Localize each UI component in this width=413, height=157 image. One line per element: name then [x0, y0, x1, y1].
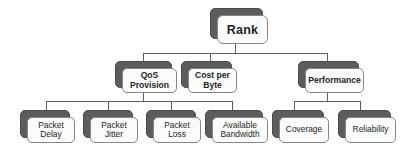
node-label: Available Bandwidth	[218, 121, 261, 140]
connector-to-qos-provision	[143, 53, 144, 61]
card-face: Packet Loss	[153, 117, 201, 143]
node-packet-jitter[interactable]: Packet Jitter	[83, 110, 138, 143]
card-face: Reliability	[345, 117, 396, 143]
node-label: Rank	[225, 23, 260, 37]
connector-to-packet-delay	[46, 101, 47, 110]
node-performance[interactable]: Performance	[298, 61, 364, 93]
node-rank[interactable]: Rank	[210, 8, 268, 44]
node-cost-per-byte[interactable]: Cost per Byte	[181, 61, 237, 93]
node-available-bandwidth[interactable]: Available Bandwidth	[205, 110, 268, 143]
node-label: Packet Loss	[162, 121, 192, 140]
connector-level1-bar	[143, 53, 328, 54]
node-label: Packet Delay	[36, 121, 66, 140]
node-label: Packet Jitter	[99, 121, 129, 140]
node-label: QoS Provision	[128, 71, 171, 90]
card-face: Available Bandwidth	[212, 117, 268, 143]
node-label: Performance	[306, 76, 363, 86]
connector-performance-children-bar	[294, 101, 361, 102]
card-face: Packet Jitter	[90, 117, 138, 143]
connector-root-stem	[235, 44, 236, 53]
node-label: Reliability	[351, 125, 391, 134]
node-label: Coverage	[284, 125, 324, 134]
connector-to-packet-loss	[171, 101, 172, 110]
hierarchy-diagram: Rank QoS Provision Cost per Byte Perform…	[0, 0, 413, 157]
connector-qos-children-bar	[46, 101, 233, 102]
card-face: Rank	[217, 15, 268, 44]
card-face: Cost per Byte	[188, 68, 237, 93]
card-face: QoS Provision	[122, 68, 177, 93]
connector-to-performance	[327, 53, 328, 61]
connector-to-reliability	[360, 101, 361, 110]
card-face: Packet Delay	[27, 117, 75, 143]
node-coverage[interactable]: Coverage	[272, 110, 329, 143]
node-packet-delay[interactable]: Packet Delay	[20, 110, 75, 143]
node-reliability[interactable]: Reliability	[338, 110, 396, 143]
card-face: Coverage	[279, 117, 329, 143]
connector-to-available-bandwidth	[232, 101, 233, 110]
node-packet-loss[interactable]: Packet Loss	[146, 110, 201, 143]
node-label: Cost per Byte	[193, 71, 232, 90]
node-qos-provision[interactable]: QoS Provision	[115, 61, 177, 93]
connector-to-packet-jitter	[108, 101, 109, 110]
card-face: Performance	[305, 68, 364, 93]
connector-to-cost-per-byte	[210, 53, 211, 61]
connector-to-coverage	[294, 101, 295, 110]
